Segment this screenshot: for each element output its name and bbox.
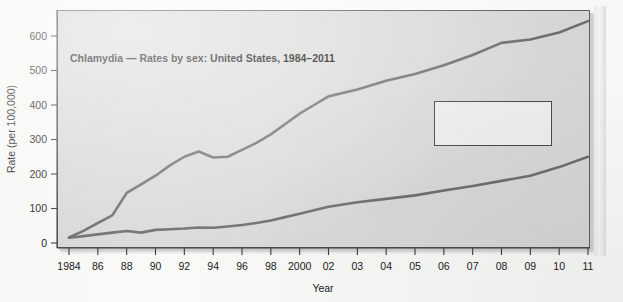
x-tick-label: 98 [265,260,277,272]
x-tick-label: 1984 [57,260,81,272]
x-tick-label: 90 [150,260,162,272]
y-tick-group: 0100200300400500600 [29,30,57,249]
y-tick-label: 400 [29,99,47,111]
y-tick-label: 500 [29,64,47,76]
x-tick-group: 1984868890929496982000020304050607080910… [57,248,593,272]
x-tick-label: 11 [583,260,594,272]
x-tick-label: 96 [236,260,248,272]
y-tick-label: 300 [29,133,47,145]
chart-legend [434,101,552,146]
x-tick-label: 2000 [288,260,312,272]
chart-svg: 0100200300400500600 19848688909294969820… [0,0,623,302]
x-tick-label: 09 [524,260,536,272]
chart-title: Chlamydia — Rates by sex: United States,… [70,52,335,64]
scanned-page: 0100200300400500600 19848688909294969820… [0,0,623,302]
x-tick-label: 05 [409,260,421,272]
x-tick-label: 94 [207,260,219,272]
y-tick-label: 100 [29,202,47,214]
x-tick-label: 03 [351,260,363,272]
x-tick-label: 88 [121,260,133,272]
x-tick-label: 04 [380,260,392,272]
x-tick-label: 06 [438,260,450,272]
y-tick-label: 600 [29,30,47,42]
series-line-men [69,157,588,238]
x-tick-label: 07 [467,260,479,272]
x-tick-label: 92 [178,260,190,272]
x-tick-label: 86 [92,260,104,272]
x-tick-label: 10 [553,260,565,272]
x-tick-label: 02 [323,260,335,272]
y-tick-label: 200 [29,168,47,180]
x-tick-label: 08 [496,260,508,272]
y-tick-label: 0 [41,237,47,249]
x-axis-title: Year [312,282,334,294]
y-axis-title: Rate (per 100,000) [5,85,17,173]
